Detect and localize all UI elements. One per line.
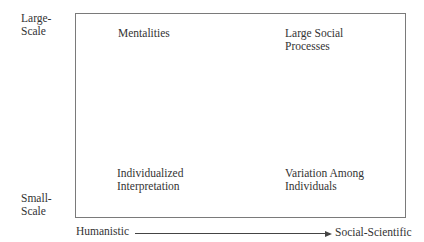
quadrant-bottom-right: Variation Among Individuals (285, 167, 364, 193)
y-top-line-1: Large- (21, 12, 51, 25)
y-top-line-2: Scale (21, 25, 51, 38)
quadrant-bottom-right-line-2: Individuals (285, 180, 364, 193)
arrow-right-icon (325, 231, 332, 237)
quadrant-top-right-line-1: Large Social (285, 27, 343, 40)
quadrant-bottom-right-line-1: Variation Among (285, 167, 364, 180)
x-axis-right-label: Social-Scientific (335, 226, 412, 239)
x-axis-left-label: Humanistic (76, 225, 129, 238)
y-axis-bottom-label: Small- Scale (21, 192, 52, 218)
y-bottom-line-1: Small- (21, 192, 52, 205)
quadrant-bottom-left-line-1: Individualized (117, 167, 183, 180)
quadrant-top-right: Large Social Processes (285, 27, 343, 53)
x-axis-arrow-line (135, 233, 327, 234)
quadrant-bottom-left-line-2: Interpretation (117, 180, 183, 193)
quadrant-bottom-left: Individualized Interpretation (117, 167, 183, 193)
y-axis-top-label: Large- Scale (21, 12, 51, 38)
quadrant-top-left-line-1: Mentalities (118, 27, 170, 40)
y-bottom-line-2: Scale (21, 205, 52, 218)
quadrant-top-right-line-2: Processes (285, 40, 343, 53)
quadrant-top-left: Mentalities (118, 27, 170, 40)
